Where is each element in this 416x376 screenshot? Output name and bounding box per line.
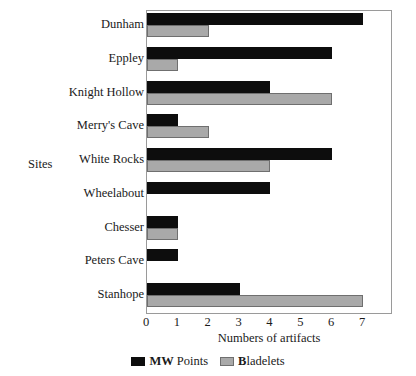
category-label: Peters Cave xyxy=(62,254,144,267)
x-tick-label: 5 xyxy=(290,315,310,329)
category-label: Chesser xyxy=(62,221,144,234)
bar-group xyxy=(147,180,391,214)
bar-group xyxy=(147,247,391,281)
bar-eppley-mw-points xyxy=(147,47,332,59)
bar-group xyxy=(147,11,391,45)
legend-swatch-icon xyxy=(131,357,145,366)
bar-knight-hollow-mw-points xyxy=(147,81,270,93)
category-label: Dunham xyxy=(62,18,144,31)
bar-chesser-mw-points xyxy=(147,216,178,228)
bar-white-rocks-mw-points xyxy=(147,148,332,160)
bar-peters-cave-mw-points xyxy=(147,249,178,261)
x-axis-tick-labels: 01234567 xyxy=(146,315,392,329)
x-tick-label: 3 xyxy=(229,315,249,329)
category-label: Stanhope xyxy=(62,288,144,301)
bar-dunham-mw-points xyxy=(147,13,363,25)
bar-merry-s-cave-bladelets xyxy=(147,126,209,138)
category-label-column: DunhamEppleyKnight HollowMerry's CaveWhi… xyxy=(62,10,144,314)
legend-swatch-icon xyxy=(220,357,234,366)
x-tick-label: 1 xyxy=(167,315,187,329)
legend-label: Bladelets xyxy=(238,354,285,368)
bars-container xyxy=(147,11,391,313)
bar-chesser-bladelets xyxy=(147,228,178,240)
bar-group xyxy=(147,112,391,146)
bar-group xyxy=(147,214,391,248)
category-label: Eppley xyxy=(62,52,144,65)
category-label: Knight Hollow xyxy=(62,86,144,99)
bar-merry-s-cave-mw-points xyxy=(147,114,178,126)
bar-chart-figure: Sites DunhamEppleyKnight HollowMerry's C… xyxy=(0,0,416,376)
x-axis-title: Numbers of artifacts xyxy=(146,331,392,345)
x-tick-label: 0 xyxy=(136,315,156,329)
bar-eppley-bladelets xyxy=(147,59,178,71)
x-tick-label: 6 xyxy=(321,315,341,329)
bar-stanhope-mw-points xyxy=(147,283,240,295)
bar-group xyxy=(147,79,391,113)
bar-stanhope-bladelets xyxy=(147,295,363,307)
plot-area xyxy=(146,10,392,314)
x-tick-label: 2 xyxy=(198,315,218,329)
legend-item: MW Points xyxy=(131,354,208,368)
bar-dunham-bladelets xyxy=(147,25,209,37)
legend-label: MW Points xyxy=(149,354,208,368)
x-tick-label: 7 xyxy=(352,315,372,329)
x-tick-label: 4 xyxy=(259,315,279,329)
category-label: White Rocks xyxy=(62,153,144,166)
bar-white-rocks-bladelets xyxy=(147,160,270,172)
chart-legend: MW PointsBladelets xyxy=(0,354,416,368)
bar-group xyxy=(147,45,391,79)
category-label: Merry's Cave xyxy=(62,119,144,132)
category-label: Wheelabout xyxy=(62,187,144,200)
bar-knight-hollow-bladelets xyxy=(147,93,332,105)
bar-group xyxy=(147,146,391,180)
bar-wheelabout-mw-points xyxy=(147,182,270,194)
bar-group xyxy=(147,281,391,315)
legend-item: Bladelets xyxy=(220,354,285,368)
